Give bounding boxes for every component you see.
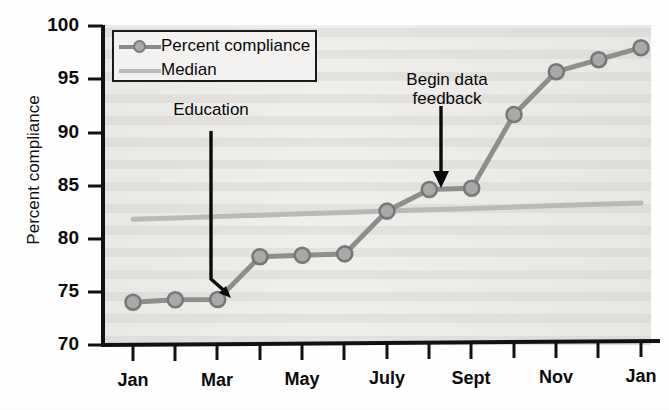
legend-line-icon bbox=[119, 62, 161, 78]
chart-svg bbox=[0, 0, 669, 410]
data-point-July bbox=[380, 204, 395, 219]
legend-item-median: Median bbox=[119, 58, 311, 82]
x-tick-label-nov: Nov bbox=[521, 367, 591, 388]
annotation-begin-data-feedback: Begin data feedback bbox=[372, 70, 522, 108]
x-axis-line bbox=[101, 341, 660, 345]
y-tick-label-80: 80 bbox=[33, 227, 79, 249]
x-tick-label-sept: Sept bbox=[436, 368, 506, 389]
y-tick-label-75: 75 bbox=[33, 280, 79, 302]
data-point-Dec bbox=[591, 52, 606, 67]
x-tick-label-jan-1: Jan bbox=[98, 370, 168, 391]
data-point-June bbox=[337, 246, 352, 261]
education-arrow-line bbox=[211, 131, 228, 294]
data-point-May bbox=[295, 248, 310, 263]
y-tick-label-85: 85 bbox=[33, 174, 79, 196]
legend-item-percent-compliance: Percent compliance bbox=[119, 34, 311, 58]
data-point-Apr bbox=[253, 249, 268, 264]
y-tick-label-100: 100 bbox=[33, 14, 79, 36]
legend-label-median: Median bbox=[161, 58, 217, 82]
legend-label-percent-compliance: Percent compliance bbox=[161, 34, 310, 58]
chart-figure: Percent compliance bbox=[0, 0, 669, 410]
y-tick-label-95: 95 bbox=[33, 67, 79, 89]
y-tick-label-70: 70 bbox=[33, 333, 79, 355]
data-point-Nov bbox=[549, 64, 564, 79]
legend-marker-circle-icon bbox=[119, 38, 161, 54]
data-point-Oct bbox=[507, 107, 522, 122]
annotation-education: Education bbox=[141, 100, 281, 119]
data-point-Feb bbox=[168, 292, 183, 307]
y-axis-ticks bbox=[88, 26, 103, 345]
x-tick-label-july: July bbox=[352, 368, 422, 389]
legend: Percent compliance Median bbox=[112, 30, 317, 82]
x-tick-label-may: May bbox=[267, 369, 337, 390]
data-point-Jan bbox=[634, 40, 649, 55]
data-point-Sept bbox=[464, 181, 479, 196]
x-tick-label-mar: Mar bbox=[182, 370, 252, 391]
data-point-Jan bbox=[126, 295, 141, 310]
data-point-Aug bbox=[422, 182, 437, 197]
x-tick-label-jan-2: Jan bbox=[606, 366, 669, 387]
y-tick-label-90: 90 bbox=[33, 121, 79, 143]
